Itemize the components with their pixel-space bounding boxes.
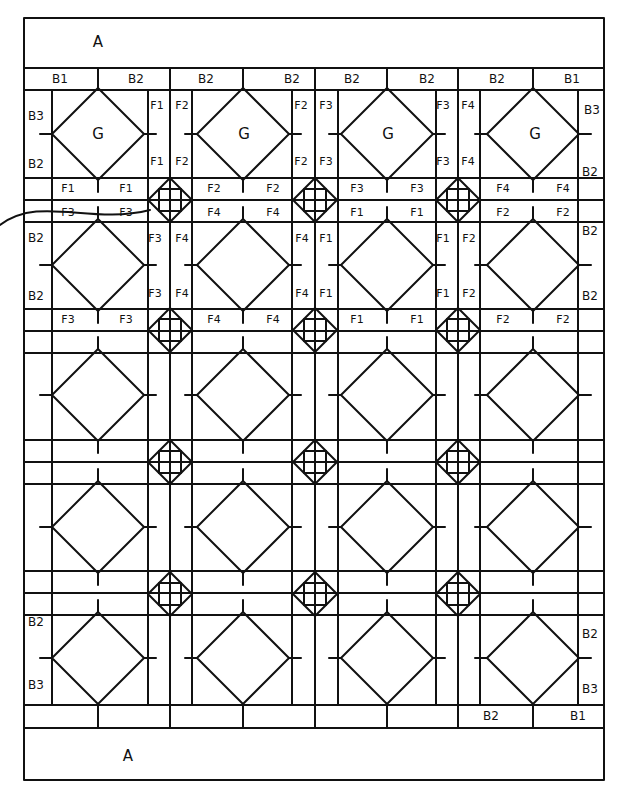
sashing-label: F3 <box>148 233 161 244</box>
bottom-strip-label: B2 <box>483 710 499 722</box>
sashing-label: F2 <box>462 233 475 244</box>
left-side-label: B2 <box>28 290 44 302</box>
sashing-label: F3 <box>319 100 332 111</box>
sashing-label: F4 <box>207 207 220 218</box>
top-strip-label: B2 <box>198 73 214 85</box>
border-label-top-a: A <box>93 35 103 50</box>
g-block-diamond <box>197 481 289 573</box>
g-block-diamond <box>197 612 289 704</box>
sashing-label: F2 <box>175 100 188 111</box>
sashing-label: F4 <box>295 233 308 244</box>
sashing-label: F1 <box>350 207 363 218</box>
g-block-diamond <box>341 219 433 311</box>
sashing-label: F4 <box>266 207 279 218</box>
sashing-label: F1 <box>410 207 423 218</box>
left-side-label: B3 <box>28 110 44 122</box>
g-block-diamond <box>52 481 144 573</box>
top-strip-label: B1 <box>564 73 580 85</box>
g-block-diamond <box>52 349 144 441</box>
g-block-diamond <box>52 219 144 311</box>
sashing-label: F1 <box>150 156 163 167</box>
top-strip-label: B2 <box>419 73 435 85</box>
sashing-label: F1 <box>410 314 423 325</box>
sashing-label: F1 <box>350 314 363 325</box>
right-side-label: B3 <box>584 104 600 116</box>
sashing-label: F1 <box>436 288 449 299</box>
right-side-label: B2 <box>582 166 598 178</box>
left-side-label: B2 <box>28 158 44 170</box>
block-label-g: G <box>529 127 541 142</box>
sashing-label: F1 <box>319 233 332 244</box>
sashing-label: F4 <box>295 288 308 299</box>
top-strip-label: B2 <box>284 73 300 85</box>
block-label-g: G <box>382 127 394 142</box>
g-block-diamond <box>197 349 289 441</box>
sashing-label: F4 <box>496 183 509 194</box>
top-strip-label: B2 <box>344 73 360 85</box>
sashing-label: F1 <box>61 183 74 194</box>
block-label-g: G <box>238 127 250 142</box>
g-block-diamond <box>341 481 433 573</box>
g-block-diamond <box>341 349 433 441</box>
sashing-label: F2 <box>462 288 475 299</box>
sashing-label: F2 <box>496 314 509 325</box>
sashing-label: F1 <box>319 288 332 299</box>
sashing-label: F3 <box>436 100 449 111</box>
g-block-diamond <box>487 612 579 704</box>
left-side-label: B2 <box>28 232 44 244</box>
left-side-label: B2 <box>28 616 44 628</box>
quilt-diagram: A A B1 B2 B2 B2 B2 B2 B2 B1 B2 B1 B3 B2 … <box>0 0 618 795</box>
sashing-label: F2 <box>175 156 188 167</box>
sashing-label: F4 <box>266 314 279 325</box>
sashing-label: F2 <box>496 207 509 218</box>
sashing-label: F4 <box>175 233 188 244</box>
top-strip-label: B1 <box>52 73 68 85</box>
g-block-diamond <box>341 612 433 704</box>
g-block-diamond <box>487 219 579 311</box>
right-side-label: B2 <box>582 225 598 237</box>
sashing-label: F3 <box>119 314 132 325</box>
sashing-label: F2 <box>556 207 569 218</box>
right-side-label: B2 <box>582 290 598 302</box>
sashing-label: F2 <box>207 183 220 194</box>
left-side-label: B3 <box>28 679 44 691</box>
border-label-bottom-a: A <box>123 749 133 764</box>
sashing-label: F1 <box>119 183 132 194</box>
g-block-diamond <box>197 219 289 311</box>
block-label-g: G <box>92 127 104 142</box>
sashing-label: F3 <box>350 183 363 194</box>
sashing-label: F3 <box>119 207 132 218</box>
sashing-label: F4 <box>461 100 474 111</box>
sashing-label: F3 <box>410 183 423 194</box>
sashing-label: F3 <box>148 288 161 299</box>
sashing-label: F4 <box>175 288 188 299</box>
sashing-label: F1 <box>436 233 449 244</box>
top-strip-label: B2 <box>489 73 505 85</box>
sashing-label: F1 <box>150 100 163 111</box>
quilt-line-drawing <box>0 0 618 795</box>
sashing-label: F2 <box>294 156 307 167</box>
right-side-label: B3 <box>582 683 598 695</box>
sashing-label: F4 <box>556 183 569 194</box>
sashing-label: F3 <box>319 156 332 167</box>
sashing-label: F2 <box>556 314 569 325</box>
bottom-strip-label: B1 <box>570 710 586 722</box>
right-side-label: B2 <box>582 628 598 640</box>
sashing-label: F2 <box>266 183 279 194</box>
sashing-label: F4 <box>207 314 220 325</box>
g-block-diamond <box>52 612 144 704</box>
top-strip-label: B2 <box>128 73 144 85</box>
sashing-label: F3 <box>61 314 74 325</box>
g-block-diamond <box>487 481 579 573</box>
sashing-label: F4 <box>461 156 474 167</box>
g-block-diamond <box>487 349 579 441</box>
sashing-label: F3 <box>61 207 74 218</box>
sashing-label: F3 <box>436 156 449 167</box>
sashing-label: F2 <box>294 100 307 111</box>
